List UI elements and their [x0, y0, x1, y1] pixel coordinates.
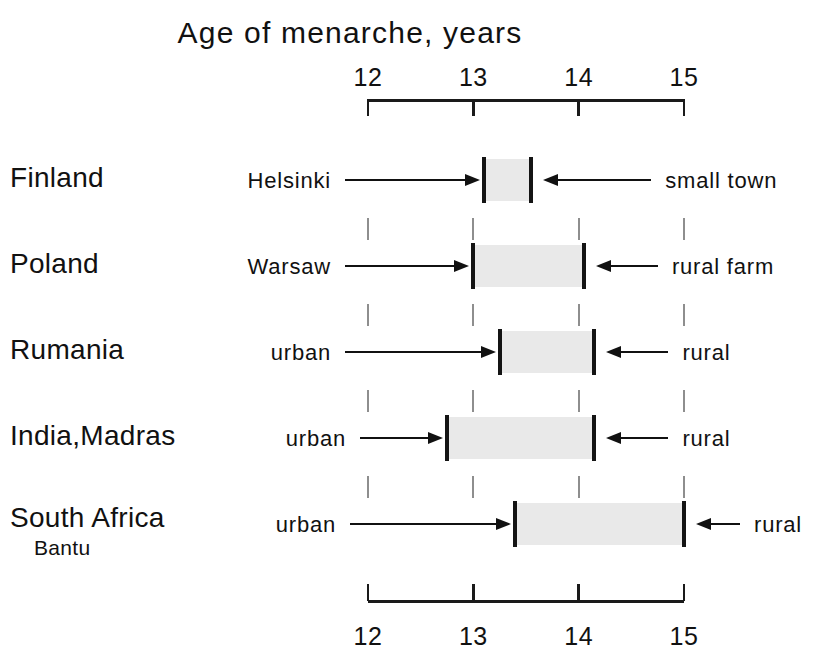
bar-cap-end [592, 415, 596, 461]
axis-bottom-tick-14 [577, 584, 580, 601]
chart-row: Rumaniaurbanrural [0, 322, 825, 382]
bar-cap-start [471, 243, 475, 289]
arrow-shaft [350, 523, 499, 525]
row-country-label: Finland [10, 162, 104, 194]
gridline-dash [683, 304, 685, 326]
arrow-shaft [618, 351, 668, 353]
row-country-label: Rumania [10, 334, 124, 366]
arrow-head [696, 518, 711, 530]
axis-top: 12131415 [368, 99, 684, 100]
gridline-dash [367, 304, 369, 326]
bar-cap-start [445, 415, 449, 461]
row-right-label: small town [665, 168, 777, 194]
row-arrow-right [345, 346, 496, 358]
chart-row: South AfricaBantuurbanrural [0, 494, 825, 554]
range-bar [515, 503, 684, 545]
axis-bottom-tick-12 [367, 584, 370, 601]
arrow-head [454, 260, 469, 272]
row-arrow-right [345, 174, 480, 186]
axis-bottom-ticklabel: 15 [670, 622, 699, 649]
row-arrow-right [345, 260, 469, 272]
row-arrow-right [360, 432, 443, 444]
axis-bottom-ticklabel: 12 [354, 622, 383, 649]
range-bar [500, 331, 595, 373]
arrow-head [596, 260, 611, 272]
row-left-label: Helsinki [248, 168, 331, 194]
chart-title: Age of menarche, years [0, 16, 700, 50]
arrow-shaft [555, 179, 651, 181]
row-right-label: rural [754, 512, 802, 538]
axis-top-tick-13 [472, 99, 475, 116]
arrow-head [606, 432, 621, 444]
gridline-dash [367, 390, 369, 412]
arrow-shaft [708, 523, 740, 525]
row-country-label: India,Madras [10, 420, 175, 452]
gridline-dash [472, 476, 474, 498]
bar-cap-end [582, 243, 586, 289]
row-arrow-left [696, 518, 740, 530]
axis-top-ticklabel: 14 [564, 63, 593, 92]
axis-top-ticklabel: 13 [459, 63, 488, 92]
axis-bottom-rule [368, 600, 684, 603]
arrow-shaft [360, 437, 431, 439]
arrow-head [428, 432, 443, 444]
row-arrow-left [596, 260, 658, 272]
gridline-dash [472, 390, 474, 412]
arrow-head [496, 518, 511, 530]
row-country-label: South AfricaBantu [10, 502, 165, 560]
arrow-shaft [608, 265, 658, 267]
arrow-shaft [345, 265, 457, 267]
arrow-head [465, 174, 480, 186]
row-left-label: urban [276, 512, 336, 538]
gridline-dash [472, 218, 474, 240]
gridline-dash [683, 390, 685, 412]
axis-top-tick-15 [683, 99, 686, 116]
row-arrow-left [606, 432, 668, 444]
gridline-dash [683, 476, 685, 498]
menarche-range-chart: Age of menarche, years 12131415 12131415… [0, 0, 825, 649]
range-bar [473, 245, 584, 287]
bar-cap-end [682, 501, 686, 547]
axis-top-ticklabel: 12 [354, 63, 383, 92]
bar-cap-end [592, 329, 596, 375]
gridline-dash [683, 218, 685, 240]
bar-cap-start [498, 329, 502, 375]
row-left-label: Warsaw [248, 254, 331, 280]
arrow-shaft [618, 437, 668, 439]
arrow-head [543, 174, 558, 186]
gridline-dash [367, 476, 369, 498]
bar-cap-end [529, 157, 533, 203]
gridline-dash [367, 218, 369, 240]
chart-row: FinlandHelsinkismall town [0, 150, 825, 210]
row-right-label: rural farm [672, 254, 774, 280]
arrow-head [481, 346, 496, 358]
axis-bottom-ticklabel: 13 [459, 622, 488, 649]
chart-row: India,Madrasurbanrural [0, 408, 825, 468]
gridline-dash [578, 218, 580, 240]
range-bar [484, 159, 531, 201]
row-country-sublabel: Bantu [34, 536, 165, 560]
row-left-label: urban [286, 426, 346, 452]
axis-top-rule [368, 99, 684, 102]
gridline-dash [578, 390, 580, 412]
gridline-dash [578, 476, 580, 498]
axis-top-ticklabel: 15 [670, 63, 699, 92]
gridline-dash [578, 304, 580, 326]
axis-top-tick-12 [367, 99, 370, 116]
row-arrow-right [350, 518, 511, 530]
arrow-shaft [345, 351, 484, 353]
gridline-dash [472, 304, 474, 326]
arrow-head [606, 346, 621, 358]
row-left-label: urban [271, 340, 331, 366]
row-arrow-left [543, 174, 651, 186]
axis-top-tick-14 [577, 99, 580, 116]
row-arrow-left [606, 346, 668, 358]
bar-cap-start [513, 501, 517, 547]
arrow-shaft [345, 179, 468, 181]
chart-row: PolandWarsawrural farm [0, 236, 825, 296]
range-bar [447, 417, 594, 459]
row-right-label: rural [682, 340, 730, 366]
axis-bottom: 12131415 [368, 600, 684, 601]
axis-bottom-tick-13 [472, 584, 475, 601]
row-country-label: Poland [10, 248, 99, 280]
